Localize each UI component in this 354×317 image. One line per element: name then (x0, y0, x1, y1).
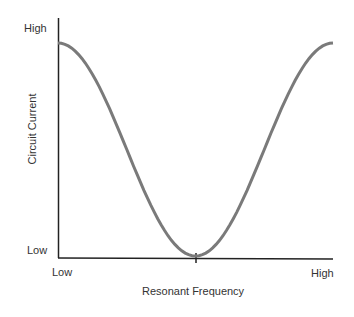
y-tick-high: High (24, 22, 47, 34)
x-tick-high: High (311, 267, 334, 279)
current-curve (58, 43, 333, 256)
y-axis-title: Circuit Current (26, 89, 38, 169)
x-axis-title: Resonant Frequency (142, 285, 244, 297)
y-tick-low: Low (27, 244, 47, 256)
x-tick-low: Low (52, 266, 72, 278)
